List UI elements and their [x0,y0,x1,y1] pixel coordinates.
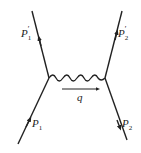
wavy-propagator [49,75,105,81]
feynman-diagram: q P1′ P2′ P1 P2 [0,0,141,153]
arrow-p2-icon [117,120,120,128]
arrow-p1-icon [26,119,30,127]
label-p1prime: P1′ [20,25,32,42]
arrow-p2prime-icon [115,32,117,40]
label-p1: P1 [31,117,43,132]
momentum-label: q [77,91,83,103]
arrow-p1prime-icon [39,38,41,46]
label-p2prime: P2′ [117,25,129,42]
